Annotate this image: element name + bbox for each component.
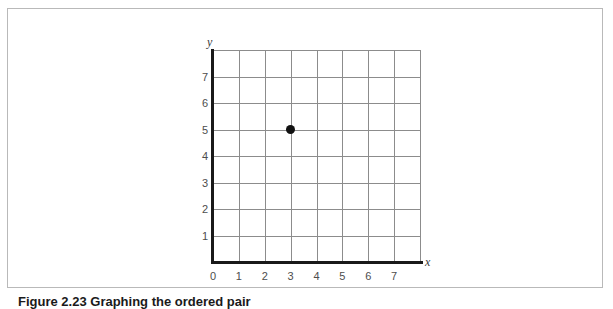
x-axis-label: x [425,256,430,268]
x-tick-label: 2 [262,271,268,282]
gridline-horizontal [213,130,420,131]
gridline-horizontal [213,77,420,78]
x-tick-label: 3 [288,271,294,282]
y-axis-label: y [207,36,212,48]
figure-caption-text: Graphing the ordered pair [90,294,250,309]
y-tick-label: 5 [202,124,208,135]
gridline-horizontal [213,103,420,104]
x-tick-label: 6 [365,271,371,282]
gridline-horizontal [213,50,420,51]
y-tick-label: 4 [202,151,208,162]
x-tick-label: 4 [313,271,319,282]
x-axis-line [211,261,423,264]
y-axis-line [211,49,214,264]
gridline-horizontal [213,183,420,184]
x-tick-label: 1 [236,271,242,282]
y-tick-label: 1 [202,230,208,241]
x-tick-label: 0 [210,271,216,282]
y-tick-label: 2 [202,204,208,215]
figure-frame: 01234567 1234567 y x [7,8,603,288]
y-tick-label: 7 [202,71,208,82]
y-tick-label: 6 [202,98,208,109]
gridline-horizontal [213,236,420,237]
figure-caption-number: Figure 2.23 [18,294,87,309]
x-tick-label: 5 [339,271,345,282]
gridline-vertical [420,50,421,262]
gridline-horizontal [213,209,420,210]
gridline-horizontal [213,156,420,157]
grid-lines [213,50,420,262]
y-tick-label: 3 [202,177,208,188]
x-tick-label: 7 [391,271,397,282]
figure-caption: Figure 2.23 Graphing the ordered pair [18,294,598,309]
coordinate-plane: 01234567 1234567 [213,50,420,262]
